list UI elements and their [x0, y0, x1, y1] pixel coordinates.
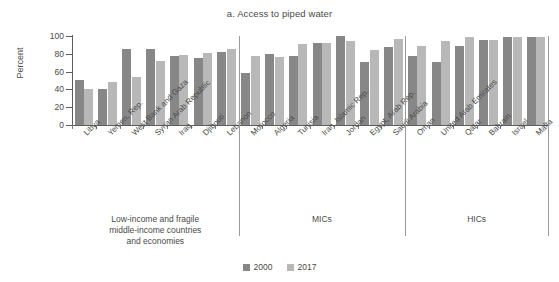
chart-legend: 20002017: [0, 262, 559, 272]
group-label: MICs: [239, 214, 406, 225]
bar-2017-yemen-rep: [108, 82, 117, 125]
y-tick: [66, 89, 72, 90]
bar-2017-lebanon: [227, 49, 236, 125]
legend-swatch: [287, 264, 294, 271]
legend-item: 2000: [243, 262, 273, 272]
bar-2017-iran-islamic-rep: [322, 43, 331, 125]
group-label: Low-income and fragilemiddle-income coun…: [72, 214, 239, 247]
bar-2000-yemen-rep: [98, 89, 107, 125]
chart-title: a. Access to piped water: [0, 8, 559, 19]
y-tick: [66, 36, 72, 37]
y-tick-label: 0: [59, 120, 64, 130]
group-divider: [239, 36, 240, 236]
bar-2017-united-arab-emirates: [441, 41, 450, 125]
bar-2017-malta: [536, 37, 545, 125]
y-tick-label: 60: [55, 67, 64, 77]
y-tick-label: 80: [55, 49, 64, 59]
group-label-line: HICs: [405, 214, 548, 225]
bar-2000-malta: [527, 37, 536, 125]
legend-label: 2000: [254, 262, 273, 272]
bar-2017-egypt-arab-rep: [370, 50, 379, 125]
y-tick: [66, 72, 72, 73]
group-divider: [548, 36, 549, 236]
y-tick: [66, 54, 72, 55]
legend-swatch: [243, 264, 250, 271]
bar-2017-israel: [513, 37, 522, 125]
group-label-line: Low-income and fragile: [72, 214, 239, 225]
group-label-line: middle-income countries: [72, 225, 239, 236]
bar-2017-tunisia: [298, 44, 307, 125]
y-axis-label: Percent: [15, 28, 25, 98]
group-label: HICs: [405, 214, 548, 225]
y-tick-label: 20: [55, 102, 64, 112]
y-tick-label: 40: [55, 84, 64, 94]
y-tick-label: 100: [50, 31, 64, 41]
legend-item: 2017: [287, 262, 317, 272]
plot-area: 020406080100: [72, 36, 548, 125]
group-divider: [405, 36, 406, 236]
bar-2000-libya: [75, 80, 84, 125]
group-label-line: MICs: [239, 214, 406, 225]
figure-panel: a. Access to piped water Percent 0204060…: [0, 0, 559, 282]
x-tick: [72, 125, 73, 129]
group-label-line: and economies: [72, 236, 239, 247]
legend-label: 2017: [298, 262, 317, 272]
bar-2000-united-arab-emirates: [432, 62, 441, 125]
y-tick: [66, 107, 72, 108]
